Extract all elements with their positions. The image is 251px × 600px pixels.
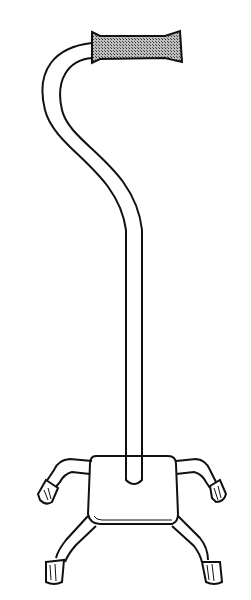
cane-drawing [0, 0, 251, 600]
foot-upper-right [210, 480, 226, 502]
foot-upper-left [38, 480, 58, 504]
foot-lower-left [46, 560, 64, 584]
cane-shaft [42, 43, 142, 484]
base-plate [88, 456, 178, 524]
handle-grip [92, 31, 182, 63]
foot-lower-right [202, 562, 222, 584]
quad-cane-illustration [0, 0, 251, 600]
